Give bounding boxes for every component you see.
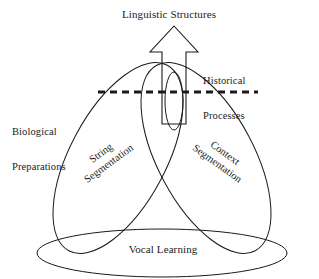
label-biological-preparations: Biological Preparations	[12, 102, 66, 196]
up-arrow	[150, 26, 198, 124]
diagram-canvas: Linguistic Structures Historical Process…	[0, 0, 319, 279]
label-biological-preparations-line2: Preparations	[12, 161, 66, 173]
label-historical-processes: Historical Processes	[203, 51, 245, 145]
label-historical-processes-line1: Historical	[203, 75, 245, 87]
label-linguistic-structures: Linguistic Structures	[104, 8, 234, 20]
label-biological-preparations-line1: Biological	[12, 126, 66, 138]
label-vocal-learning: Vocal Learning	[108, 243, 218, 255]
label-historical-processes-line2: Processes	[203, 110, 245, 122]
